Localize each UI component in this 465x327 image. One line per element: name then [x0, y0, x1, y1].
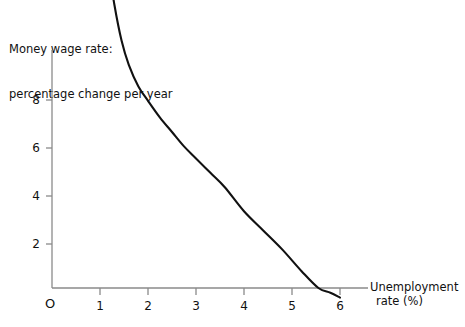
x-tick-label-6: 6 — [336, 299, 344, 313]
chart-plot-area — [0, 0, 465, 327]
y-tick-label-2: 2 — [32, 237, 40, 251]
y-tick-label-6: 6 — [32, 141, 40, 155]
x-tick-label-2: 2 — [144, 299, 152, 313]
x-tick-label-5: 5 — [288, 299, 296, 313]
y-tick-label-8: 8 — [32, 93, 40, 107]
x-axis-ticks — [100, 288, 340, 295]
x-axis-label: Unemployment rate (%) — [370, 280, 458, 308]
y-axis-ticks — [46, 100, 52, 244]
x-tick-label-3: 3 — [192, 299, 200, 313]
y-tick-label-4: 4 — [32, 189, 40, 203]
phillips-curve-line — [100, 0, 340, 298]
x-tick-label-4: 4 — [240, 299, 248, 313]
x-axis-label-line-1: Unemployment — [370, 280, 458, 294]
x-axis-label-line-2: rate (%) — [370, 294, 458, 308]
axes-group — [52, 50, 368, 288]
x-tick-label-1: 1 — [96, 299, 104, 313]
phillips-curve-figure: Money wage rate: percentage change per y… — [0, 0, 465, 327]
origin-label: O — [45, 296, 55, 311]
